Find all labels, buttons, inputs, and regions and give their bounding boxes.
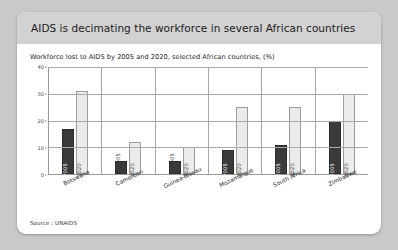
bar-chart: 010203040 200520202005202020052020200520… — [30, 65, 368, 215]
bar[interactable]: 2020 — [76, 91, 88, 174]
x-axis-category: Mozambique — [208, 173, 261, 207]
x-axis-category: Zimbabwe — [315, 173, 368, 207]
plot-area: 2005202020052020200520202005202020052020… — [48, 67, 368, 175]
slide-header: AIDS is decimating the workforce in seve… — [17, 12, 381, 44]
gridline — [49, 147, 368, 148]
bar[interactable]: 2020 — [289, 107, 301, 174]
gridline — [49, 94, 368, 95]
slide-card: AIDS is decimating the workforce in seve… — [17, 12, 381, 234]
y-axis-tick-label: 0 — [41, 172, 44, 178]
y-axis-tick-mark — [45, 121, 48, 122]
bar[interactable]: 2005 — [169, 161, 181, 174]
slide-body: Workforce lost to AIDS by 2005 and 2020,… — [17, 44, 381, 234]
bar-year-label: 2005 — [115, 153, 121, 167]
y-axis-tick-mark — [45, 148, 48, 149]
bar[interactable]: 2005 — [275, 145, 287, 174]
x-axis-category: Botswana — [48, 173, 101, 207]
y-axis-tick-label: 40 — [37, 64, 44, 70]
source-note: Source : UNAIDS — [30, 220, 77, 226]
plot-frame: 2005202020052020200520202005202020052020… — [48, 67, 368, 175]
x-axis-category: Cameroon — [101, 173, 154, 207]
y-axis-tick-label: 20 — [37, 118, 44, 124]
y-axis-tick-mark — [45, 94, 48, 95]
x-axis-category: South Africa — [261, 173, 314, 207]
bar[interactable]: 2020 — [236, 107, 248, 174]
gridline — [49, 121, 368, 122]
bar[interactable]: 2005 — [222, 150, 234, 174]
bar-year-label: 2005 — [169, 153, 175, 167]
chart-subtitle: Workforce lost to AIDS by 2005 and 2020,… — [30, 53, 368, 61]
page-title: AIDS is decimating the workforce in seve… — [31, 22, 355, 34]
x-axis-category-labels: BotswanaCameroonGuinea-BissauMozambiqueS… — [48, 173, 368, 207]
bar[interactable]: 2020 — [343, 94, 355, 174]
y-axis-tick-mark — [45, 67, 48, 68]
bar[interactable]: 2005 — [62, 129, 74, 174]
bar[interactable]: 2005 — [115, 161, 127, 174]
y-axis-tick-label: 10 — [37, 145, 44, 151]
y-axis-tick-label: 30 — [37, 91, 44, 97]
x-axis-category: Guinea-Bissau — [155, 173, 208, 207]
y-axis-tick-mark — [45, 175, 48, 176]
gridline — [49, 67, 368, 68]
y-axis: 010203040 — [30, 67, 47, 175]
